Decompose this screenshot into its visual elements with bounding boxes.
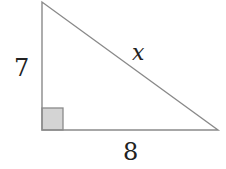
triangle — [42, 2, 218, 130]
vertical-leg-label: 7 — [14, 54, 29, 82]
right-angle-marker — [42, 108, 63, 130]
triangle-diagram: 7 8 x — [0, 0, 226, 169]
horizontal-leg-label: 8 — [123, 138, 138, 166]
hypotenuse-label: x — [132, 40, 145, 65]
